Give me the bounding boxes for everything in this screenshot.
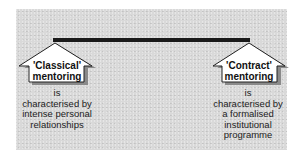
mentoring-diagram: 'Classical' mentoring is characterised b… — [0, 0, 302, 155]
classical-title-line2: mentoring — [29, 71, 85, 82]
classical-desc-line1: is — [14, 88, 100, 99]
contract-title-line2: mentoring — [221, 71, 277, 82]
contract-title: 'Contract' mentoring — [221, 60, 277, 82]
classical-title-line1: 'Classical' — [29, 60, 85, 71]
contract-desc-line5: programme — [205, 130, 291, 141]
classical-title: 'Classical' mentoring — [29, 60, 85, 82]
contract-title-line1: 'Contract' — [221, 60, 277, 71]
classical-desc-line4: relationships — [14, 120, 100, 131]
contract-desc-line1: is — [205, 88, 291, 99]
contract-description: is characterised by a formalised institu… — [205, 88, 291, 141]
classical-desc-line3: intense personal — [14, 109, 100, 120]
contract-desc-line3: a formalised — [205, 109, 291, 120]
classical-description: is characterised by intense personal rel… — [14, 88, 100, 130]
